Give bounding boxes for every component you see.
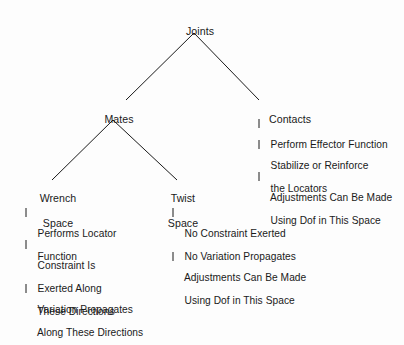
node-mates[interactable]: Mates	[92, 101, 133, 138]
twist-detail-1-line1: No Constraint Exerted	[185, 228, 286, 239]
node-twist-space-line1: Twist	[171, 192, 195, 204]
tree-diagram: Joints Mates Contacts Wrench Space Twist…	[0, 0, 404, 345]
wrench-detail-3: Variation Propagates Along These Directi…	[26, 292, 143, 345]
node-joints-label: Joints	[186, 25, 214, 37]
node-mates-label: Mates	[104, 113, 133, 125]
twist-detail-2-line2: Using Dof in This Space	[185, 295, 295, 306]
node-contacts-label: Contacts	[269, 113, 311, 125]
wrench-detail-3-line2: Along These Directions	[37, 327, 143, 338]
node-joints[interactable]: Joints	[174, 13, 214, 50]
wrench-detail-2-line1: Constraint Is	[38, 260, 96, 271]
twist-detail-2: Adjustments Can Be Made Using Dof in Thi…	[173, 260, 306, 318]
wrench-detail-3-line1: Variation Propagates	[38, 304, 133, 315]
contacts-detail-2-line1: Stabilize or Reinforce	[271, 160, 369, 171]
contacts-detail-3-line1: Adjustments Can Be Made	[270, 192, 392, 203]
wrench-detail-1-line1: Performs Locator	[38, 228, 117, 239]
twist-detail-2-line1: Adjustments Can Be Made	[184, 272, 306, 283]
node-wrench-space-line1: Wrench	[40, 192, 77, 204]
